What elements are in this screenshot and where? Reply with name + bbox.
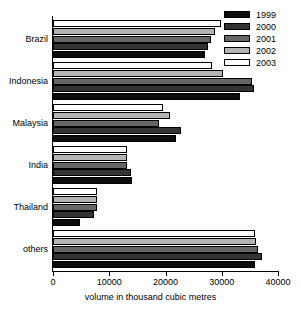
bar-indonesia-2001 xyxy=(53,78,252,85)
bar-brazil-2000 xyxy=(53,43,208,50)
bar-others-2000 xyxy=(53,253,262,260)
category-group: others xyxy=(53,228,278,270)
bar-india-2000 xyxy=(53,169,131,176)
category-label: Thailand xyxy=(13,202,48,212)
category-group: Thailand xyxy=(53,186,278,228)
bar-malaysia-1999 xyxy=(53,135,176,142)
x-axis-tick-label: 30000 xyxy=(209,277,234,288)
bar-thailand-1999 xyxy=(53,219,80,226)
legend-label: 2002 xyxy=(256,46,276,56)
x-axis-tick xyxy=(166,272,167,276)
bar-others-2001 xyxy=(53,246,258,253)
chart-legend: 19992000200120022003 xyxy=(224,9,296,69)
x-axis-tick xyxy=(278,272,279,276)
bar-india-2001 xyxy=(53,162,127,169)
legend-swatch-icon xyxy=(224,23,250,30)
category-label: Indonesia xyxy=(9,76,48,86)
bar-malaysia-2000 xyxy=(53,127,181,134)
bar-thailand-2002 xyxy=(53,196,97,203)
x-axis-tick xyxy=(109,272,110,276)
legend-swatch-icon xyxy=(224,11,250,18)
category-label: Brazil xyxy=(25,34,48,44)
bar-thailand-2000 xyxy=(53,211,94,218)
bar-india-2002 xyxy=(53,154,127,161)
bar-others-1999 xyxy=(53,261,255,268)
bar-others-2003 xyxy=(53,230,255,237)
bar-india-2003 xyxy=(53,146,127,153)
bar-brazil-2002 xyxy=(53,28,215,35)
bar-malaysia-2002 xyxy=(53,112,170,119)
x-axis-tick-label: 20000 xyxy=(153,277,178,288)
legend-swatch-icon xyxy=(224,59,250,66)
bar-brazil-1999 xyxy=(53,51,205,58)
bar-indonesia-2003 xyxy=(53,62,212,69)
legend-label: 2001 xyxy=(256,34,276,44)
legend-swatch-icon xyxy=(224,47,250,54)
bar-indonesia-1999 xyxy=(53,93,240,100)
bar-indonesia-2000 xyxy=(53,85,254,92)
x-axis-tick-label: 10000 xyxy=(97,277,122,288)
category-label: India xyxy=(28,160,48,170)
x-axis-tick-label: 0 xyxy=(50,277,55,288)
bar-thailand-2003 xyxy=(53,188,97,195)
legend-item-2003: 2003 xyxy=(224,57,296,68)
bar-india-1999 xyxy=(53,177,132,184)
legend-item-2002: 2002 xyxy=(224,45,296,56)
bar-indonesia-2002 xyxy=(53,70,223,77)
bar-brazil-2001 xyxy=(53,36,211,43)
x-axis-tick-label: 40000 xyxy=(265,277,290,288)
category-group: Malaysia xyxy=(53,102,278,144)
category-label: Malaysia xyxy=(12,118,48,128)
category-label: others xyxy=(23,244,48,254)
legend-swatch-icon xyxy=(224,35,250,42)
bar-thailand-2001 xyxy=(53,204,97,211)
legend-label: 2000 xyxy=(256,22,276,32)
legend-item-2001: 2001 xyxy=(224,33,296,44)
bar-chart: BrazilIndonesiaMalaysiaIndiaThailandothe… xyxy=(0,0,301,313)
x-axis-title: volume in thousand cubic metres xyxy=(0,292,301,302)
x-axis-tick xyxy=(222,272,223,276)
legend-label: 1999 xyxy=(256,10,276,20)
x-axis-tick xyxy=(53,272,54,276)
legend-label: 2003 xyxy=(256,58,276,68)
bar-others-2002 xyxy=(53,238,256,245)
legend-item-2000: 2000 xyxy=(224,21,296,32)
bar-malaysia-2001 xyxy=(53,120,159,127)
category-group: India xyxy=(53,144,278,186)
legend-item-1999: 1999 xyxy=(224,9,296,20)
bar-brazil-2003 xyxy=(53,20,221,27)
bar-malaysia-2003 xyxy=(53,104,163,111)
